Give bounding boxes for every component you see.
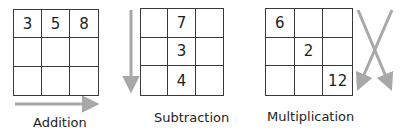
multiplication-label: Multiplication [267,109,354,124]
grid-cell [196,66,223,95]
grid-cell: 3 [168,38,195,67]
grid-cell: 3 [14,10,42,38]
grid-cell [323,38,352,67]
grid-cell [42,67,70,95]
grid-cell [295,9,324,38]
grid-cell [70,67,98,95]
grid-cell [196,9,223,38]
multiplication-arrow-left-icon [360,10,392,84]
grid-cell [141,66,168,95]
grid-cell: 6 [266,9,295,38]
grid-cell: 8 [70,10,98,38]
multiplication-arrow-right-icon [358,10,389,84]
grid-cell [196,38,223,67]
addition-label: Addition [33,115,87,130]
grid-cell [141,9,168,38]
subtraction-grid: 7 3 4 [140,8,224,96]
grid-cell [14,67,42,95]
grid-cell [70,38,98,66]
grid-cell [266,38,295,67]
grid-cell [266,66,295,95]
multiplication-grid: 6 2 12 [265,8,353,96]
grid-cell [14,38,42,66]
grid-cell [42,38,70,66]
grid-cell [295,66,324,95]
grid-cell: 5 [42,10,70,38]
grid-cell: 7 [168,9,195,38]
grid-cell [141,38,168,67]
grid-cell: 2 [295,38,324,67]
grid-cell: 12 [323,66,352,95]
grid-cell [323,9,352,38]
subtraction-label: Subtraction [154,110,229,125]
addition-grid: 3 5 8 [13,9,99,96]
grid-cell: 4 [168,66,195,95]
